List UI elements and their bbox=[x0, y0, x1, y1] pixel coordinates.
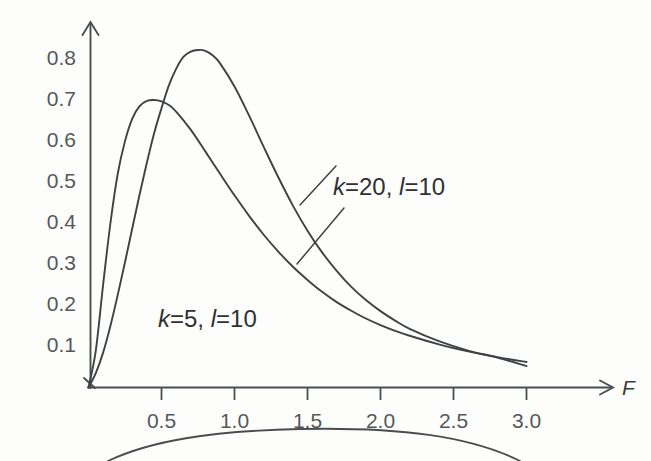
x-axis-ticks bbox=[162, 388, 527, 400]
x-tick-label-4: 2.5 bbox=[439, 409, 468, 432]
x-tick-label-5: 3.0 bbox=[512, 409, 541, 432]
y-tick-label-7: 0.8 bbox=[47, 46, 76, 69]
curve-label-k20: k=20, l=10 bbox=[333, 173, 445, 200]
data-curves bbox=[89, 50, 527, 388]
curve-k5-l10 bbox=[89, 100, 527, 387]
leader-line-k20 bbox=[297, 208, 344, 264]
x-tick-label-3: 2.0 bbox=[366, 409, 395, 432]
y-tick-label-0: 0.1 bbox=[47, 333, 76, 356]
y-tick-label-2: 0.3 bbox=[47, 251, 76, 274]
curve-label-k5: k=5, l=10 bbox=[158, 305, 257, 332]
x-axis bbox=[84, 378, 613, 395]
y-tick-label-5: 0.6 bbox=[47, 128, 76, 151]
x-axis-name: F bbox=[622, 376, 636, 399]
y-tick-label-4: 0.5 bbox=[47, 169, 76, 192]
y-tick-label-1: 0.2 bbox=[47, 292, 76, 315]
plot-canvas: 0.5 1.0 1.5 2.0 2.5 3.0 0.1 0.2 0.3 0.4 … bbox=[0, 0, 651, 461]
x-tick-label-0: 0.5 bbox=[147, 409, 176, 432]
y-tick-label-6: 0.7 bbox=[47, 87, 76, 110]
y-axis bbox=[83, 22, 99, 388]
leader-line-k5 bbox=[300, 166, 336, 205]
y-tick-label-3: 0.4 bbox=[47, 210, 77, 233]
x-tick-label-1: 1.0 bbox=[220, 409, 249, 432]
y-tick-labels: 0.1 0.2 0.3 0.4 0.5 0.6 0.7 0.8 bbox=[47, 46, 77, 356]
adjacent-figure-arc bbox=[108, 429, 520, 461]
